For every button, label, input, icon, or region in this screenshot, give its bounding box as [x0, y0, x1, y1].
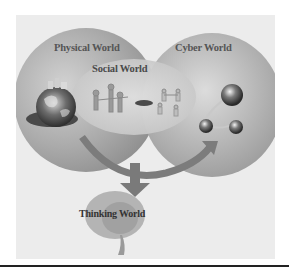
- thinking-world-label: Thinking World: [79, 208, 145, 219]
- diagram-frame: Physical World Cyber World Social World …: [16, 15, 275, 259]
- horizontal-rule: [0, 265, 289, 267]
- physical-world-label: Physical World: [54, 42, 120, 53]
- brain-icon: [85, 191, 145, 255]
- cyber-world-label: Cyber World: [175, 42, 232, 53]
- social-world-label: Social World: [92, 63, 147, 74]
